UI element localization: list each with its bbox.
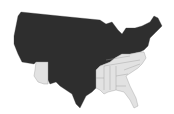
us-map — [0, 0, 174, 114]
state-arizona — [34, 62, 48, 84]
